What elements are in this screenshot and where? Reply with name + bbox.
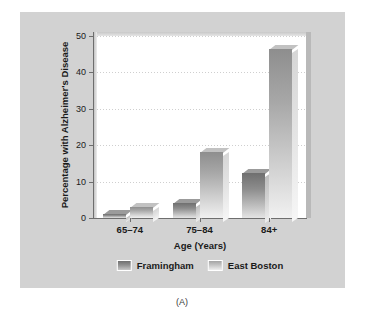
bar-side-face	[153, 207, 159, 222]
legend-item: East Boston	[208, 260, 283, 271]
bar-front-face	[200, 152, 223, 218]
chart-area: 01020304050 65–7475–8484+ Percentage wit…	[72, 32, 306, 239]
plot-box-right-shadow	[306, 32, 311, 218]
legend-label: East Boston	[228, 261, 283, 271]
x-axis-tick-label: 75–84	[186, 225, 212, 235]
bar	[130, 207, 153, 218]
figure-caption: (A)	[176, 298, 188, 307]
y-axis-tick-label: 20	[76, 141, 86, 150]
legend-swatch	[208, 260, 223, 271]
bar-front-face	[173, 203, 196, 218]
bar	[242, 173, 265, 219]
chart-legend: FraminghamEast Boston	[117, 260, 283, 271]
x-axis-tick-mark	[200, 218, 201, 222]
y-axis-tick-label: 40	[76, 68, 86, 77]
x-axis-title: Age (Years)	[174, 241, 226, 251]
bar	[269, 49, 292, 218]
bar-front-face	[103, 214, 126, 218]
chart-panel: 01020304050 65–7475–8484+ Percentage wit…	[20, 12, 345, 288]
x-axis-tick-label: 84+	[261, 225, 277, 235]
bar-front-face	[242, 173, 265, 219]
y-axis-title: Percentage with Alzheimer's Disease	[60, 42, 70, 209]
x-axis-tick-mark	[269, 218, 270, 222]
bar-front-face	[130, 207, 153, 218]
bar-front-face	[269, 49, 292, 218]
figure-container: 01020304050 65–7475–8484+ Percentage wit…	[0, 0, 365, 318]
bar	[173, 203, 196, 218]
x-axis-tick-label: 65–74	[117, 225, 143, 235]
bar-side-face	[223, 153, 229, 222]
bar	[200, 152, 223, 218]
legend-swatch	[117, 260, 132, 271]
x-axis-tick-mark	[130, 218, 131, 222]
y-axis-tick-label: 30	[76, 104, 86, 113]
plot-box-left-edge	[94, 32, 97, 218]
legend-label: Framingham	[137, 261, 194, 271]
y-axis-tick-label: 50	[76, 32, 86, 41]
legend-item: Framingham	[117, 260, 194, 271]
bar	[103, 214, 126, 218]
gridline	[97, 36, 306, 37]
y-axis-tick-label: 10	[76, 177, 86, 186]
bar-side-face	[292, 49, 298, 222]
y-axis-line	[93, 32, 94, 219]
y-axis-tick-label: 0	[81, 214, 86, 223]
